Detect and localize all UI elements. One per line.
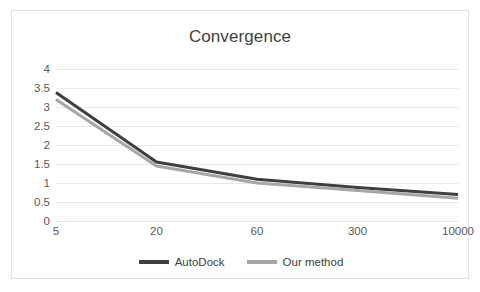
plot-area [56,69,458,221]
y-axis-tick-label: 1 [16,177,50,189]
x-axis-tick-label: 10000 [442,225,474,237]
y-axis: 00.511.522.533.54 [12,69,50,221]
x-axis: 5206030010000 [56,225,458,245]
chart-container: Convergence 00.511.522.533.54 5206030010… [11,10,469,279]
series-line [56,99,458,198]
legend-label: AutoDock [175,256,225,268]
y-axis-tick-label: 3 [16,101,50,113]
x-axis-tick-label: 300 [348,225,367,237]
y-axis-tick-label: 4 [16,63,50,75]
x-axis-tick-label: 5 [53,225,59,237]
y-axis-tick-label: 0.5 [16,196,50,208]
legend-item[interactable]: Our method [247,256,344,268]
series-lines [56,69,458,221]
chart-title: Convergence [12,27,468,47]
legend-item[interactable]: AutoDock [139,256,225,268]
legend-swatch [139,260,169,264]
y-axis-tick-label: 1.5 [16,158,50,170]
x-axis-tick-label: 60 [251,225,264,237]
y-axis-tick-label: 2 [16,139,50,151]
y-axis-tick-label: 2.5 [16,120,50,132]
legend-label: Our method [283,256,344,268]
y-axis-tick-label: 3.5 [16,82,50,94]
legend-swatch [247,260,277,264]
y-axis-tick-label: 0 [16,215,50,227]
chart-legend: AutoDockOur method [12,256,470,268]
x-axis-tick-label: 20 [150,225,163,237]
series-line [56,93,458,195]
gridline [56,221,458,222]
